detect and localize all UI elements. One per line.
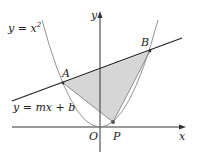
x-axis-label: x	[179, 131, 185, 142]
shaded-triangle-abp	[63, 51, 150, 122]
point-b-label: B	[141, 37, 149, 48]
line-label: y = mx + b	[13, 102, 75, 113]
x-axis-arrow-icon	[179, 125, 186, 130]
origin-label: O	[89, 131, 98, 142]
curve-label: y = x2	[8, 22, 41, 34]
curve-label-exponent: 2	[37, 21, 41, 29]
point-p-marker	[111, 120, 115, 124]
diagram-canvas: y = x2 y = mx + b A B P O x y	[0, 0, 199, 152]
point-a-label: A	[62, 68, 70, 79]
y-axis-label: y	[91, 10, 97, 21]
curve-label-text: y = x	[8, 22, 37, 35]
point-p-label: P	[113, 131, 120, 142]
point-b-marker	[149, 50, 152, 53]
y-axis-arrow-icon	[98, 11, 103, 18]
point-a-marker	[62, 82, 65, 85]
